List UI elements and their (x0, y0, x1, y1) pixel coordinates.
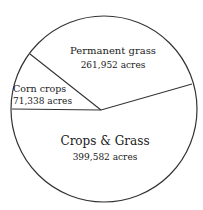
slice-value-corn-crops: 71,338 acres (13, 96, 72, 106)
slice-label-crops-grass: Crops & Grass (50, 134, 160, 148)
slice-label-corn-crops: Corn crops (13, 83, 66, 94)
slice-value-crops-grass: 399,582 acres (50, 152, 160, 162)
slice-value-permanent-grass: 261,952 acres (68, 60, 158, 70)
slice-label-permanent-grass: Permanent grass (68, 45, 158, 56)
